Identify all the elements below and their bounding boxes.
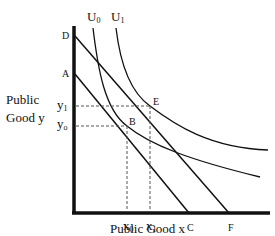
point-a-label: A [62, 67, 69, 81]
point-d-label: D [62, 29, 69, 43]
y1-tick-label: y1 [57, 98, 68, 116]
u0-label: U0 [87, 10, 100, 28]
point-f-label: F [228, 221, 234, 235]
u1-label: U1 [111, 10, 124, 28]
indifference-curve-u0 [93, 28, 260, 177]
point-b-label: B [129, 115, 136, 129]
y-axis-label-line2: Good y [6, 111, 45, 125]
y0-tick-label: yo [57, 117, 68, 135]
x-axis-label: Public Good x [110, 222, 185, 236]
budget-line-ac [75, 74, 189, 213]
y-axis-label-line1: Public [6, 93, 39, 107]
point-c-label: C [187, 221, 194, 235]
point-e-label: E [153, 95, 159, 109]
indifference-curve-u1 [116, 28, 268, 150]
